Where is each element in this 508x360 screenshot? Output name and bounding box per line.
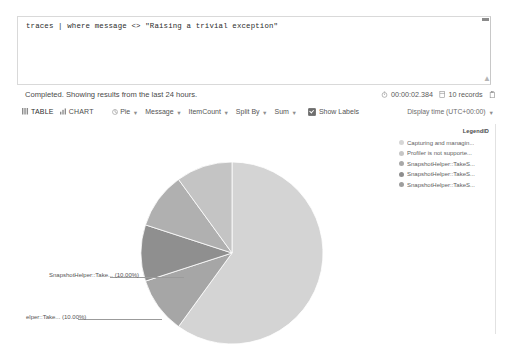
- query-editor[interactable]: traces | where message <> "Raising a tri…: [17, 16, 491, 85]
- stopwatch-icon: [381, 91, 388, 98]
- dropdown-y-field[interactable]: ItemCount ▼: [189, 107, 236, 116]
- editor-scroll-nub[interactable]: [482, 18, 489, 21]
- pie-slice-label: elper::Take... (10.00%): [26, 314, 86, 320]
- status-metrics: 00:00:02.384 10 records: [381, 90, 495, 99]
- chart-legend: LegendID Capturing and managin... Profil…: [399, 128, 491, 190]
- legend-item[interactable]: SnapshotHelper::TakeS...: [399, 159, 491, 170]
- tab-chart[interactable]: CHART: [60, 107, 100, 116]
- tab-table-label: TABLE: [31, 108, 54, 115]
- pie-chart-svg[interactable]: [0, 124, 400, 360]
- query-duration-text: 00:00:02.384: [391, 90, 433, 99]
- legend-item-label: SnapshotHelper::TakeS...: [407, 171, 475, 177]
- legend-item-label: Capturing and managin...: [407, 140, 474, 146]
- tab-table[interactable]: TABLE: [22, 107, 60, 116]
- chart-toolbar: TABLE CHART Pie ▼ Message ▼ ItemC: [0, 107, 508, 123]
- chart-type-label: Pie: [120, 108, 130, 115]
- chevron-down-icon: ▼: [223, 109, 228, 115]
- legend-item[interactable]: SnapshotHelper::TakeS...: [399, 180, 491, 191]
- x-field-label: Message: [145, 108, 173, 115]
- tab-chart-label: CHART: [69, 108, 94, 115]
- show-labels-label: Show Labels: [319, 108, 359, 115]
- chevron-down-icon: ▼: [176, 109, 181, 115]
- grid-icon: [22, 108, 29, 115]
- leader-line: [78, 319, 162, 320]
- legend-item[interactable]: Profiler is not supporte...: [399, 148, 491, 159]
- results-status-bar: Completed. Showing results from the last…: [0, 90, 508, 105]
- split-by-label: Split By: [236, 108, 260, 115]
- show-labels-checkbox[interactable]: Show Labels: [304, 108, 359, 116]
- legend-title: LegendID: [399, 128, 491, 134]
- pie-chart: SnapshotHelper::Take... (10.00%) elper::…: [0, 124, 400, 360]
- pie-slices: [141, 162, 323, 344]
- pie-icon: [112, 109, 118, 115]
- chevron-down-icon: ▼: [262, 109, 267, 115]
- checkbox-indicator: [308, 108, 316, 116]
- bar-chart-icon: [60, 108, 67, 115]
- chart-panel: LegendID Capturing and managin... Profil…: [0, 124, 508, 360]
- y-field-label: ItemCount: [189, 108, 221, 115]
- legend-item[interactable]: Capturing and managin...: [399, 138, 491, 149]
- dropdown-chart-type[interactable]: Pie ▼: [112, 107, 146, 116]
- chevron-down-icon: ▼: [133, 109, 138, 115]
- display-time-label: Display time (UTC+00:00): [407, 108, 485, 115]
- clipboard-icon[interactable]: [489, 91, 496, 99]
- dropdown-aggregation[interactable]: Sum ▼: [275, 107, 304, 116]
- record-count: 10 records: [439, 90, 482, 99]
- status-message: Completed. Showing results from the last…: [25, 90, 197, 99]
- dropdown-x-field[interactable]: Message ▼: [145, 107, 188, 116]
- aggregation-label: Sum: [275, 108, 289, 115]
- chevron-up-icon[interactable]: ▲: [482, 74, 492, 84]
- record-count-text: 10 records: [449, 90, 483, 99]
- table-icon: [439, 91, 446, 98]
- legend-item-label: Profiler is not supporte...: [407, 150, 472, 156]
- legend-item[interactable]: SnapshotHelper::TakeS...: [399, 169, 491, 180]
- query-duration: 00:00:02.384: [381, 90, 433, 99]
- dropdown-display-time[interactable]: Display time (UTC+00:00) ▼: [407, 108, 494, 115]
- pie-slice-label: SnapshotHelper::Take... (10.00%): [49, 272, 139, 278]
- dropdown-split-by[interactable]: Split By ▼: [236, 107, 275, 116]
- legend-item-label: SnapshotHelper::TakeS...: [407, 161, 475, 167]
- panel-divider: [495, 124, 496, 334]
- chevron-down-icon: ▼: [489, 109, 494, 115]
- query-text[interactable]: traces | where message <> "Raising a tri…: [26, 22, 278, 30]
- chevron-down-icon: ▼: [291, 109, 296, 115]
- legend-item-label: SnapshotHelper::TakeS...: [407, 182, 475, 188]
